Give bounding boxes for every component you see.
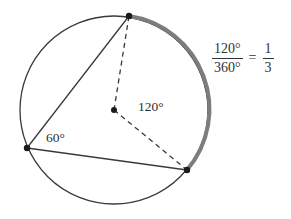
fraction-bar-degrees — [212, 58, 243, 59]
inscribed-angle-label: 60° — [46, 131, 65, 145]
fraction-denominator-degrees: 360° — [212, 61, 243, 75]
degree-fraction: 120° 360° — [212, 42, 243, 75]
fraction-denominator-result: 3 — [263, 61, 274, 75]
central-angle-label: 120° — [138, 100, 164, 114]
circle-arc-figure: 120° 60° 120° 360° = 1 3 — [0, 0, 291, 219]
dashed-radius-to-top — [114, 16, 129, 110]
point-marker-left — [24, 145, 30, 151]
chord-left-to-lower-right — [27, 148, 187, 170]
result-fraction: 1 3 — [263, 42, 274, 75]
point-marker-lower-right — [184, 167, 190, 173]
point-marker-top — [126, 13, 132, 19]
fraction-numerator-result: 1 — [263, 42, 274, 56]
point-marker-center — [111, 107, 117, 113]
highlighted-arc-120 — [129, 16, 209, 170]
equals-sign: = — [249, 51, 257, 66]
chord-left-to-top — [27, 16, 129, 148]
fraction-numerator-degrees: 120° — [212, 42, 243, 56]
fraction-bar-result — [263, 58, 274, 59]
arc-fraction-equation: 120° 360° = 1 3 — [212, 42, 274, 75]
